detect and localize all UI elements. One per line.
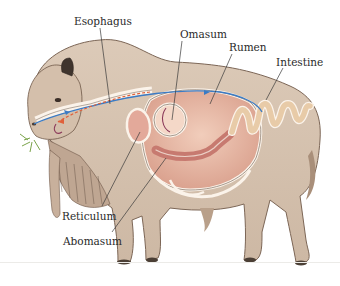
label-intestine: Intestine — [276, 57, 323, 68]
label-omasum: Omasum — [180, 29, 227, 40]
label-esophagus: Esophagus — [74, 16, 132, 27]
label-abomasum: Abomasum — [63, 236, 122, 247]
ground-line — [0, 262, 340, 263]
label-reticulum: Reticulum — [62, 211, 116, 222]
bison-digestive-diagram: Esophagus Omasum Rumen Intestine Reticul… — [0, 0, 340, 286]
bison-illustration — [0, 0, 340, 286]
label-rumen: Rumen — [229, 42, 267, 53]
